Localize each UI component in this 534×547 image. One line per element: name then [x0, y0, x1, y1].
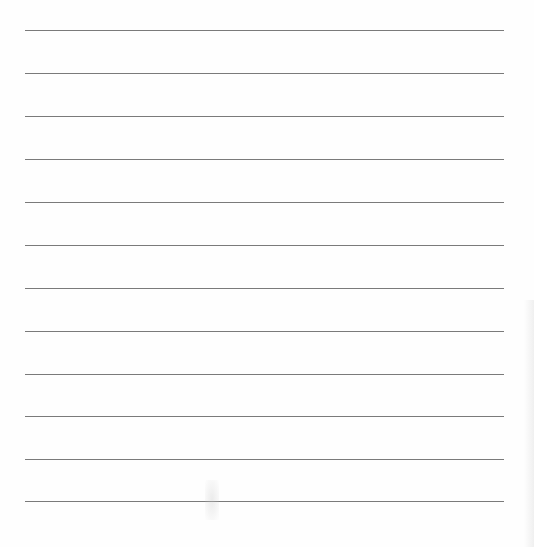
- ruled-line: [25, 288, 504, 289]
- ruled-line: [25, 245, 504, 246]
- ruled-line: [25, 159, 504, 160]
- ruled-line: [25, 202, 504, 203]
- ruled-line: [25, 416, 504, 417]
- ruled-line: [25, 374, 504, 375]
- ruled-line: [25, 331, 504, 332]
- scan-edge-shadow: [524, 300, 534, 547]
- scan-smudge: [205, 480, 219, 520]
- lined-paper-page: [0, 0, 534, 547]
- ruled-line: [25, 459, 504, 460]
- ruled-line: [25, 73, 504, 74]
- ruled-line: [25, 30, 504, 31]
- ruled-line: [25, 116, 504, 117]
- ruled-line: [25, 501, 504, 502]
